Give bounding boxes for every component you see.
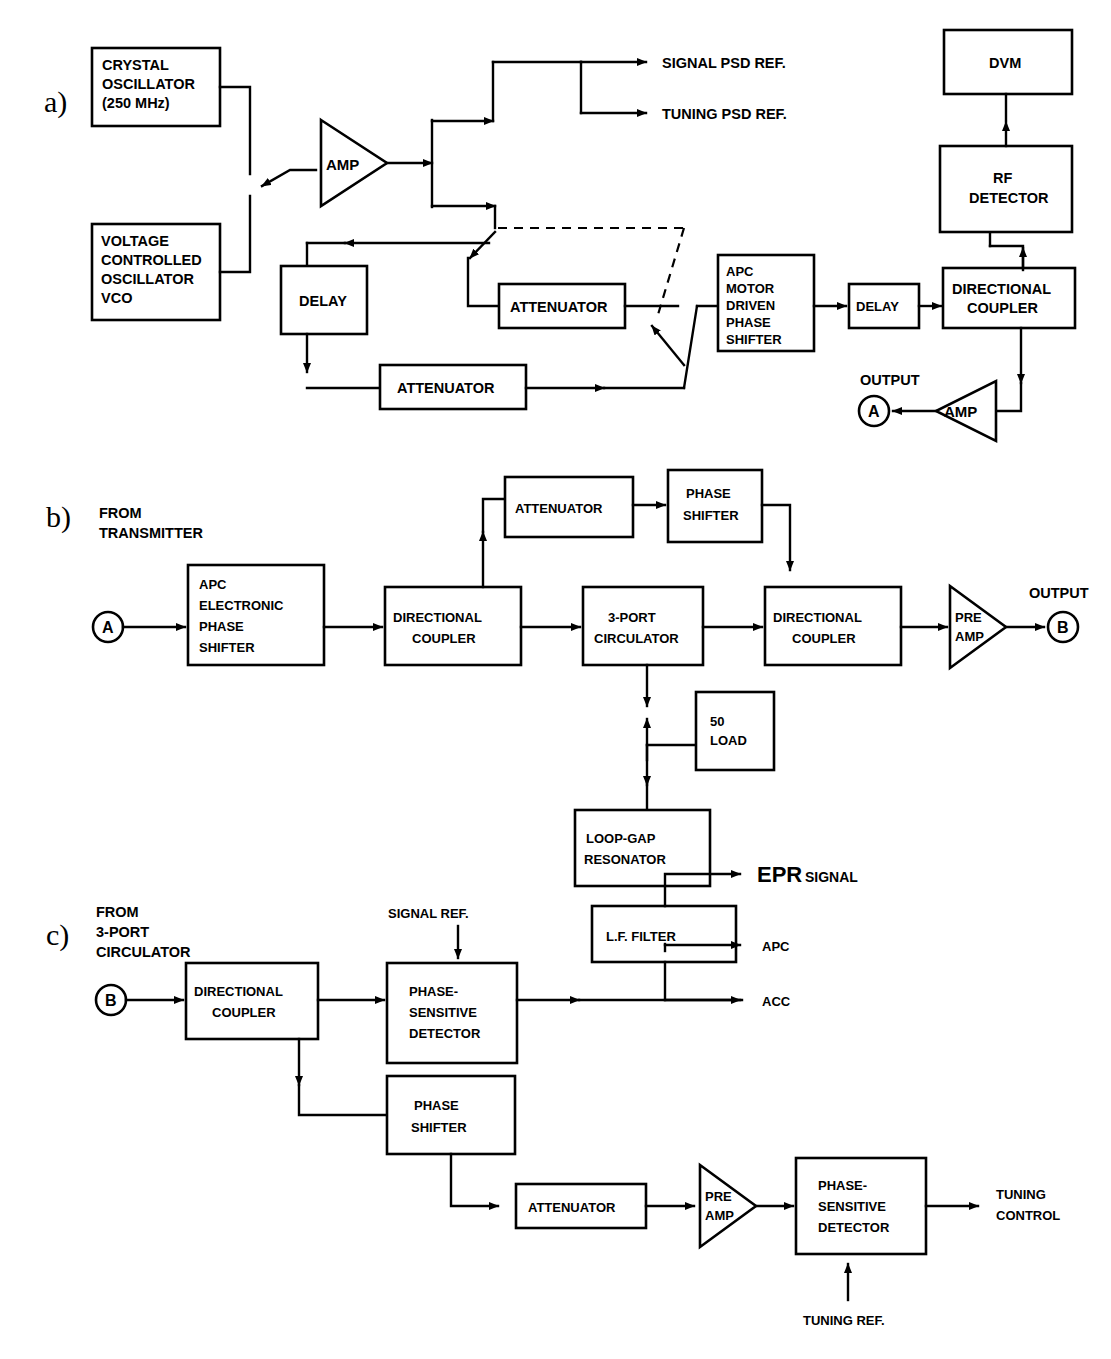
block-pre-amp-b[interactable]: PRE AMP xyxy=(950,586,1006,668)
wire-bus-to-amp-input xyxy=(262,170,316,186)
block-three-port-circulator[interactable]: 3-PORT CIRCULATOR xyxy=(583,587,703,665)
block-directional-coupler-b2[interactable]: DIRECTIONAL COUPLER xyxy=(765,587,901,665)
preamp-c-line1: PRE xyxy=(705,1189,732,1204)
signal-ref-label: SIGNAL REF. xyxy=(388,906,469,921)
block-lf-filter[interactable]: L.F. FILTER xyxy=(592,906,736,962)
node-a-circle-panel-a[interactable]: A xyxy=(859,396,889,426)
output-amp-a-label: AMP xyxy=(944,403,977,420)
vco-line4: VCO xyxy=(101,290,132,306)
apc-b-line3: PHASE xyxy=(199,619,244,634)
wire-coupler-to-outamp xyxy=(996,383,1021,411)
wire-coupler-to-rfdet-1 xyxy=(990,246,1023,268)
acc-output-label: ACC xyxy=(762,994,791,1009)
dc1-b-line2: COUPLER xyxy=(412,631,476,646)
epr-signal-sub-label: SIGNAL xyxy=(805,869,858,885)
resonator-line1: LOOP-GAP xyxy=(586,831,656,846)
wire-ps-to-dc2-b xyxy=(762,505,790,570)
load-line1: 50 xyxy=(710,714,724,729)
block-directional-coupler-c[interactable]: DIRECTIONAL COUPLER xyxy=(186,963,318,1039)
crystal-oscillator-line2: OSCILLATOR xyxy=(102,76,195,92)
crystal-oscillator-line1: CRYSTAL xyxy=(102,57,169,73)
switch-blade-lower xyxy=(652,326,684,365)
panel-c: c) FROM 3-PORT CIRCULATOR B DIRECTIONAL … xyxy=(46,862,1060,1328)
apc-b-line2: ELECTRONIC xyxy=(199,598,284,613)
preamp-c-line2: AMP xyxy=(705,1208,734,1223)
block-delay-2[interactable]: DELAY xyxy=(849,284,919,328)
wire-ps-to-attenuator-c xyxy=(451,1154,498,1206)
from-circulator-line1: FROM xyxy=(96,904,139,920)
tuning-psd-ref-label: TUNING PSD REF. xyxy=(662,106,787,122)
block-voltage-controlled-oscillator[interactable]: VOLTAGE CONTROLLED OSCILLATOR VCO xyxy=(92,224,220,320)
vco-line1: VOLTAGE xyxy=(101,233,169,249)
block-directional-coupler-a[interactable]: DIRECTIONAL COUPLER xyxy=(943,268,1075,328)
block-crystal-oscillator[interactable]: CRYSTAL OSCILLATOR (250 MHz) xyxy=(92,48,220,126)
block-pre-amp-c[interactable]: PRE AMP xyxy=(700,1165,756,1247)
from-circulator-line3: CIRCULATOR xyxy=(96,944,191,960)
panel-b-letter: b) xyxy=(46,500,71,534)
block-attenuator-a1[interactable]: ATTENUATOR xyxy=(499,284,625,328)
dc2-b-line1: DIRECTIONAL xyxy=(773,610,862,625)
psd1-c-line1: PHASE- xyxy=(409,984,458,999)
ps-b-line1: PHASE xyxy=(686,486,731,501)
apc-a-line2: MOTOR xyxy=(726,281,775,296)
signal-psd-ref-label: SIGNAL PSD REF. xyxy=(662,55,786,71)
attenuator-b-label: ATTENUATOR xyxy=(515,501,603,516)
psd2-c-line1: PHASE- xyxy=(818,1178,867,1193)
block-attenuator-a2[interactable]: ATTENUATOR xyxy=(380,365,526,409)
apc-a-line1: APC xyxy=(726,264,754,279)
block-attenuator-c[interactable]: ATTENUATOR xyxy=(516,1184,646,1228)
block-phase-shifter-b[interactable]: PHASE SHIFTER xyxy=(668,470,762,542)
resonator-line2: RESONATOR xyxy=(584,852,666,867)
block-amp-a[interactable]: AMP xyxy=(321,120,387,206)
wire-switch-upper-to-attenuator xyxy=(468,258,499,306)
dc-c-line2: COUPLER xyxy=(212,1005,276,1020)
amp-a-label: AMP xyxy=(326,156,359,173)
ps-c-line2: SHIFTER xyxy=(411,1120,467,1135)
tuning-control-line2: CONTROL xyxy=(996,1208,1060,1223)
panel-a: a) CRYSTAL OSCILLATOR (250 MHz) VOLTAGE … xyxy=(44,30,1075,441)
wire-vco-to-bus xyxy=(220,196,250,272)
node-a-label-panel-a: A xyxy=(868,403,880,420)
block-phase-shifter-c[interactable]: PHASE SHIFTER xyxy=(387,1076,515,1154)
block-output-amp-a[interactable]: AMP xyxy=(936,381,996,441)
block-attenuator-b[interactable]: ATTENUATOR xyxy=(505,477,633,537)
psd2-c-line2: SENSITIVE xyxy=(818,1199,886,1214)
vco-line2: CONTROLLED xyxy=(101,252,202,268)
node-a-label-panel-b: A xyxy=(102,619,114,636)
epr-signal-main-label: EPR xyxy=(757,862,802,887)
block-phase-sensitive-detector-c2[interactable]: PHASE- SENSITIVE DETECTOR xyxy=(796,1158,926,1254)
tuning-ref-label: TUNING REF. xyxy=(803,1313,885,1328)
ps-b-line2: SHIFTER xyxy=(683,508,739,523)
block-fifty-ohm-load[interactable]: 50 LOAD xyxy=(696,692,774,770)
node-b-circle-panel-c[interactable]: B xyxy=(96,985,126,1015)
block-phase-sensitive-detector-c1[interactable]: PHASE- SENSITIVE DETECTOR xyxy=(387,963,517,1063)
delay-1-label: DELAY xyxy=(299,293,347,309)
node-b-circle-panel-b[interactable]: B xyxy=(1048,612,1078,642)
switch-lower-post xyxy=(684,306,697,388)
block-apc-electronic-phase-shifter[interactable]: APC ELECTRONIC PHASE SHIFTER xyxy=(188,565,324,665)
dc1-b-line1: DIRECTIONAL xyxy=(393,610,482,625)
psd2-c-line3: DETECTOR xyxy=(818,1220,890,1235)
from-circulator-line2: 3-PORT xyxy=(96,924,149,940)
block-directional-coupler-b1[interactable]: DIRECTIONAL COUPLER xyxy=(385,587,521,665)
wire-xtal-to-bus xyxy=(220,87,250,174)
block-dvm[interactable]: DVM xyxy=(944,30,1072,94)
apc-a-line4: PHASE xyxy=(726,315,771,330)
output-label-panel-a: OUTPUT xyxy=(860,372,920,388)
block-delay-1[interactable]: DELAY xyxy=(281,266,367,334)
panel-a-letter: a) xyxy=(44,85,67,119)
circulator-line2: CIRCULATOR xyxy=(594,631,679,646)
preamp-b-line2: AMP xyxy=(955,629,984,644)
apc-output-label: APC xyxy=(762,939,790,954)
block-apc-motor-driven-phase-shifter[interactable]: APC MOTOR DRIVEN PHASE SHIFTER xyxy=(718,255,814,351)
apc-b-line4: SHIFTER xyxy=(199,640,255,655)
rf-detector-line2: DETECTOR xyxy=(969,190,1049,206)
output-label-panel-b: OUTPUT xyxy=(1029,585,1089,601)
circulator-line1: 3-PORT xyxy=(608,610,656,625)
preamp-b-line1: PRE xyxy=(955,610,982,625)
block-rf-detector[interactable]: RF DETECTOR xyxy=(940,146,1072,232)
dc2-b-line2: COUPLER xyxy=(792,631,856,646)
node-a-circle-panel-b[interactable]: A xyxy=(93,612,123,642)
lf-filter-label: L.F. FILTER xyxy=(606,929,676,944)
vco-line3: OSCILLATOR xyxy=(101,271,194,287)
